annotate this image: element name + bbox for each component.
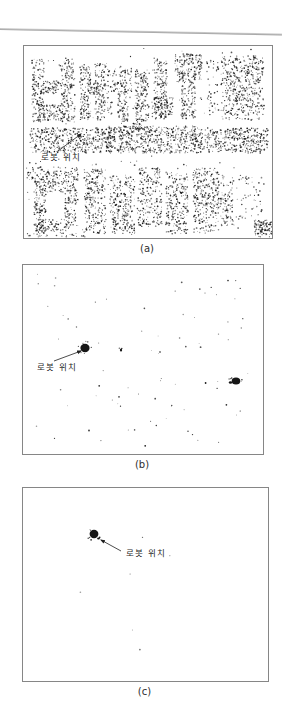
particle-cluster-blob xyxy=(229,381,232,383)
robot-position-arrow xyxy=(101,540,121,551)
particle-cluster-blob xyxy=(80,344,89,352)
panel-b-caption: (b) xyxy=(22,459,262,471)
particle-cloud xyxy=(36,274,248,447)
particle-cluster-blob xyxy=(159,351,161,353)
robot-position-label: 로봇 위치 xyxy=(41,152,81,162)
panel-c-scatter-plot: 로봇 위치 xyxy=(22,487,269,682)
particle-cluster-blob xyxy=(90,530,99,538)
panel-b: 로봇 위치 (b) xyxy=(22,264,262,471)
panel-b-scatter-plot: 로봇 위치 xyxy=(22,264,264,455)
robot-position-label: 로봇 위치 xyxy=(37,362,77,372)
panel-c-caption: (c) xyxy=(22,686,267,698)
panel-a-caption: (a) xyxy=(23,243,271,255)
panel-a-scatter-plot: 로봇 위치 xyxy=(23,45,273,239)
robot-position-arrow xyxy=(54,351,81,361)
robot-position-label: 로봇 위치 xyxy=(126,548,166,558)
panel-c: 로봇 위치 (c) xyxy=(22,487,267,698)
page-divider-rule xyxy=(0,28,282,35)
panel-a: 로봇 위치 (a) xyxy=(23,45,271,255)
robot-position-arrow xyxy=(58,134,81,151)
particle-cluster-blob xyxy=(97,537,100,539)
paper-figure-page: 로봇 위치 (a) 로봇 위치 (b) 로봇 위치 (c) xyxy=(0,0,282,706)
particle-cluster-blob xyxy=(232,378,241,385)
particle-cloud xyxy=(26,48,273,238)
